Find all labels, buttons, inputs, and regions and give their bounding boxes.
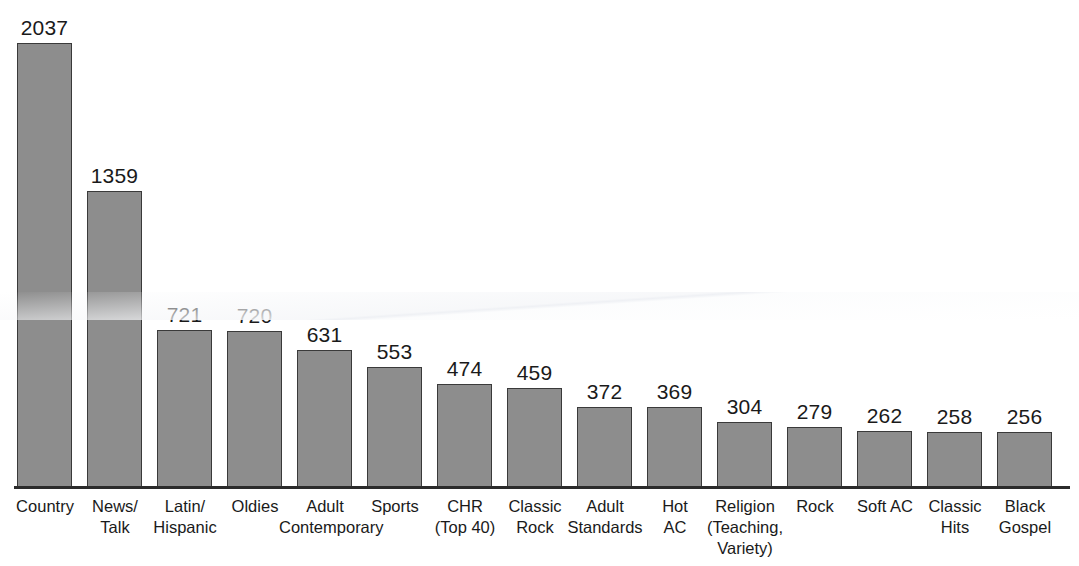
bar-chart: 2037 1359 721 720 631 553 474 45 [0, 0, 1079, 566]
bar[interactable] [647, 407, 702, 488]
plot-area: 2037 1359 721 720 631 553 474 45 [0, 0, 1079, 488]
bar[interactable] [927, 432, 982, 488]
category-label-line: Black [979, 496, 1071, 517]
bar-group[interactable]: 2037 [17, 2, 72, 488]
bar[interactable] [17, 43, 72, 488]
bar-value-label: 372 [565, 380, 644, 404]
bar-group[interactable]: 631 [297, 2, 352, 488]
bar[interactable] [437, 384, 492, 488]
bar-value-label: 258 [915, 405, 994, 429]
category-label-line: Contemporary [279, 517, 371, 538]
bar-value-label: 631 [285, 323, 364, 347]
category-label-line: Hispanic [139, 517, 231, 538]
bar[interactable] [577, 407, 632, 488]
category-label-line: Gospel [979, 517, 1071, 538]
bar-value-label: 262 [845, 404, 924, 428]
bar[interactable] [87, 191, 142, 488]
bar-value-label: 279 [775, 400, 854, 424]
category-label-line: (Teaching, [699, 517, 791, 538]
bar[interactable] [997, 432, 1052, 488]
x-axis-line [14, 486, 1070, 489]
bar-group[interactable]: 474 [437, 2, 492, 488]
bar-group[interactable]: 369 [647, 2, 702, 488]
bar-group[interactable]: 304 [717, 2, 772, 488]
bar-group[interactable]: 721 [157, 2, 212, 488]
bar[interactable] [717, 422, 772, 488]
bar-value-label: 474 [425, 357, 504, 381]
bar-group[interactable]: 720 [227, 2, 282, 488]
bar[interactable] [227, 331, 282, 488]
bar-group[interactable]: 459 [507, 2, 562, 488]
bar-group[interactable]: 256 [997, 2, 1052, 488]
bar-value-label: 304 [705, 395, 784, 419]
bar-value-label: 256 [985, 405, 1064, 429]
bar-group[interactable]: 279 [787, 2, 842, 488]
bar-value-label: 459 [495, 361, 574, 385]
bar[interactable] [157, 330, 212, 488]
bar-group[interactable]: 372 [577, 2, 632, 488]
category-label-line: Variety) [699, 538, 791, 559]
bar[interactable] [857, 431, 912, 488]
bar[interactable] [507, 388, 562, 488]
bar-value-label: 369 [635, 380, 714, 404]
bar-value-label: 721 [145, 303, 224, 327]
bar[interactable] [297, 350, 352, 488]
bar-value-label: 2037 [5, 16, 84, 40]
bar-value-label: 720 [215, 304, 294, 328]
bar-group[interactable]: 1359 [87, 2, 142, 488]
bar-group[interactable]: 553 [367, 2, 422, 488]
category-axis-labels: Country News/Talk Latin/Hispanic Oldies … [0, 496, 1079, 566]
bar-group[interactable]: 258 [927, 2, 982, 488]
category-label: BlackGospel [979, 496, 1071, 538]
bar[interactable] [787, 427, 842, 488]
bar-value-label: 1359 [75, 164, 154, 188]
bar[interactable] [367, 367, 422, 488]
bar-group[interactable]: 262 [857, 2, 912, 488]
bar-value-label: 553 [355, 340, 434, 364]
